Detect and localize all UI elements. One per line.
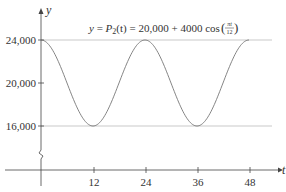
chart: t y 24,000 20,000 16,000 12 24 36 48 y =… [0,0,286,192]
equation-label: y = P2(t) = 20,000 + 4000 cos [88,22,220,36]
x-tick-label: 12 [89,176,100,188]
paren-open: ( [221,20,225,35]
paren-close: ) [234,20,238,35]
axis-break-icon [39,150,43,159]
x-tick-label: 36 [193,176,205,188]
y-tick-label: 16,000 [6,120,37,132]
y-tick-label: 24,000 [6,34,37,46]
y-axis-label: y [45,3,52,17]
cosine-curve [41,40,249,126]
x-tick-label: 24 [141,176,153,188]
frac-denominator: 12 [227,29,233,35]
x-axis-label: t [282,163,286,177]
x-tick-label: 48 [245,176,257,188]
y-axis-arrow-icon [39,8,44,14]
y-tick-label: 20,000 [6,77,37,89]
frac-numerator: πt [227,21,232,27]
